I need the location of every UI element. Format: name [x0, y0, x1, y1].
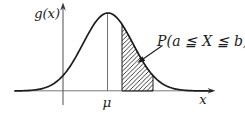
y-axis-label: g(x) — [34, 6, 60, 21]
figure-canvas: g(x) x μ P(a ≦ X ≦ b) — [0, 0, 245, 118]
x-axis-label: x — [199, 92, 207, 107]
distribution-figure: g(x) x μ P(a ≦ X ≦ b) — [0, 0, 245, 118]
bell-curve — [15, 13, 212, 91]
mean-label: μ — [103, 94, 112, 110]
shaded-probability-region — [122, 24, 153, 91]
probability-label: P(a ≦ X ≦ b) — [156, 33, 245, 49]
